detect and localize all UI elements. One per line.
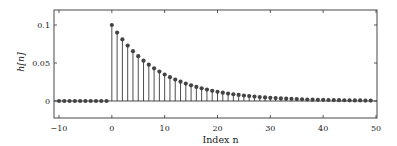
x-tick-label: −10 [51, 124, 68, 133]
stem-marker [104, 99, 108, 103]
stem-marker [321, 98, 325, 102]
stem-marker [353, 98, 357, 102]
stem-marker [78, 99, 82, 103]
stem-marker [136, 54, 140, 58]
stem-marker [311, 98, 315, 102]
stem-marker [163, 72, 167, 76]
stem-marker [268, 96, 272, 100]
stem-marker [284, 97, 288, 101]
stem-marker [120, 37, 124, 41]
stem-marker [189, 83, 193, 87]
stem-marker [237, 93, 241, 97]
stem-marker [231, 92, 235, 96]
stem-marker [62, 99, 66, 103]
y-tick-label: 0.1 [37, 21, 50, 30]
stem-marker [194, 85, 198, 89]
stem-marker [178, 80, 182, 84]
stem-marker [168, 75, 172, 79]
chart-svg: −1001020304050 00.050.1 Index n h[n] [0, 0, 397, 146]
stem-marker [263, 95, 267, 99]
stem-marker [126, 43, 130, 47]
stem-markers [57, 23, 373, 103]
stem-marker [152, 66, 156, 70]
y-tick-label: 0.05 [32, 59, 50, 68]
stem-marker [363, 98, 367, 102]
x-tick-label: 50 [371, 124, 381, 133]
stem-marker [89, 99, 93, 103]
stem-marker [141, 59, 145, 63]
stem-marker [110, 23, 114, 27]
stem-marker [242, 93, 246, 97]
stem-marker [316, 98, 320, 102]
x-tick-label: 20 [212, 124, 222, 133]
stem-marker [200, 86, 204, 90]
y-tick-label: 0 [45, 97, 50, 106]
stem-marker [274, 96, 278, 100]
stem-marker [215, 90, 219, 94]
x-tick-label: 10 [160, 124, 170, 133]
stem-marker [67, 99, 71, 103]
stem-marker [305, 97, 309, 101]
stem-marker [173, 77, 177, 81]
stem-marker [184, 81, 188, 85]
stem-marker [131, 49, 135, 53]
x-axis-ticks: −1001020304050 [51, 10, 382, 133]
x-axis-label: Index n [202, 134, 238, 145]
x-tick-label: 40 [318, 124, 328, 133]
stem-marker [57, 99, 61, 103]
stem-marker [99, 99, 103, 103]
stem-marker [369, 98, 373, 102]
stem-marker [289, 97, 293, 101]
y-axis-ticks: 00.050.1 [32, 21, 377, 106]
stem-marker [221, 91, 225, 95]
stem-chart: −1001020304050 00.050.1 Index n h[n] [0, 0, 397, 146]
stem-marker [205, 88, 209, 92]
stem-marker [295, 97, 299, 101]
stem-marker [347, 98, 351, 102]
stem-marker [226, 91, 230, 95]
stem-marker [210, 89, 214, 93]
stem-marker [279, 96, 283, 100]
x-tick-label: 0 [109, 124, 114, 133]
stem-marker [157, 69, 161, 73]
stem-marker [147, 63, 151, 67]
stem-marker [332, 98, 336, 102]
stem-marker [258, 95, 262, 99]
stem-marker [94, 99, 98, 103]
stem-marker [342, 98, 346, 102]
stem-marker [300, 97, 304, 101]
stem-marker [73, 99, 77, 103]
x-tick-label: 30 [265, 124, 275, 133]
stem-marker [337, 98, 341, 102]
stem-marker [358, 98, 362, 102]
stem-marker [326, 98, 330, 102]
y-axis-label: h[n] [15, 52, 26, 72]
stem-marker [252, 94, 256, 98]
stem-marker [83, 99, 87, 103]
stem-marker [247, 94, 251, 98]
stem-marker [115, 30, 119, 34]
